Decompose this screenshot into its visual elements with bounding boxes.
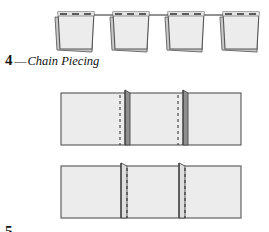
- fabric-strip: [61, 93, 241, 145]
- row1-chained-units: [55, 12, 259, 52]
- chain-piecing-figure: 4—Chain Piecing 5: [0, 0, 269, 232]
- figure-caption-top: 4—Chain Piecing: [5, 52, 99, 68]
- figure-caption-bottom: 5: [5, 224, 16, 232]
- patch-unit: [110, 12, 149, 52]
- caption-dash: [13, 226, 16, 232]
- chain-piecing-illustration: [0, 0, 269, 232]
- caption-label: Chain Piecing: [28, 54, 100, 68]
- fabric-strip: [61, 166, 241, 218]
- caption-dash: —: [13, 54, 28, 68]
- caption-number: 5: [5, 224, 13, 232]
- patch-unit: [55, 12, 94, 52]
- row3-joined-strip-pressed-seams: [61, 163, 241, 218]
- caption-number: 4: [5, 52, 13, 68]
- row2-joined-strip-closed-seams: [61, 90, 241, 145]
- seam-allowance-pressed: [121, 163, 127, 218]
- patch-unit: [165, 12, 204, 52]
- patch-unit: [220, 12, 259, 52]
- seam-allowance-pressed: [179, 163, 185, 218]
